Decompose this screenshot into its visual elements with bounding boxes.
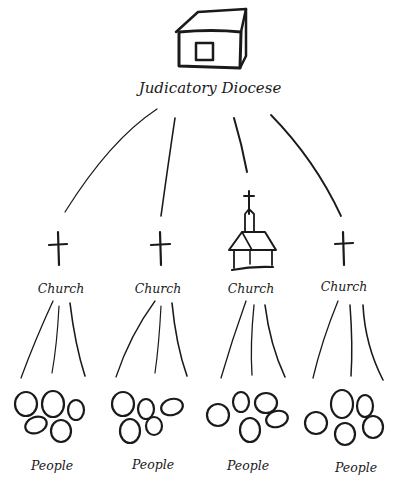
connector-line	[234, 118, 247, 172]
connector-line	[65, 109, 157, 212]
people-label: People	[227, 458, 269, 473]
building-icon	[176, 9, 246, 68]
people-group-icon	[15, 391, 84, 442]
people-label: People	[132, 457, 174, 472]
cross-icon	[335, 232, 353, 265]
people-label: People	[335, 460, 377, 475]
church-building-icon	[229, 191, 276, 270]
diocese-connectors	[65, 109, 341, 216]
connector-line	[271, 115, 341, 216]
church-label: Church	[135, 281, 182, 296]
church-label: Church	[321, 279, 368, 294]
people-group-icon	[207, 392, 290, 442]
connector-line	[161, 118, 175, 216]
cross-icon	[151, 232, 170, 265]
church-label: Church	[38, 281, 85, 296]
diocese-label: Judicatory Diocese	[139, 79, 282, 97]
cross-icon	[49, 232, 67, 265]
people-group-icon	[112, 392, 185, 443]
diocese-hierarchy-diagram: Judicatory Diocese Church Church Church …	[0, 0, 402, 499]
church-label: Church	[228, 281, 275, 296]
church-connectors	[21, 301, 383, 380]
people-label: People	[31, 458, 73, 473]
people-group-icon	[305, 390, 383, 445]
